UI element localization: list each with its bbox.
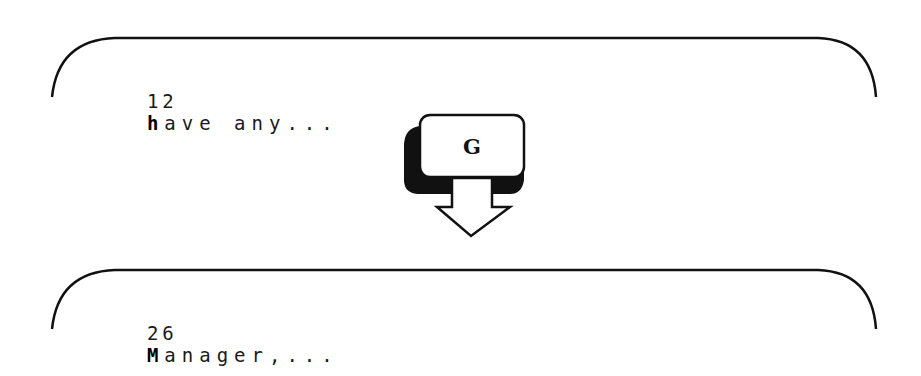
cursor-character: M (147, 344, 164, 366)
editor-line-before: 12 have any... (112, 68, 339, 134)
line-content: anager,... (164, 344, 338, 366)
command-key-g: G (420, 116, 524, 176)
line-number: 12 (147, 90, 178, 112)
line-content: ave any... (164, 112, 338, 134)
editor-line-after: 26 Manager,... (112, 300, 339, 366)
cursor-character: h (147, 112, 164, 134)
line-number: 26 (147, 322, 178, 344)
